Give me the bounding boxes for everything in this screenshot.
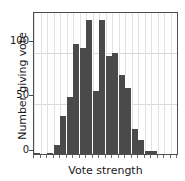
x-tick-mark (124, 155, 125, 158)
histogram-bar (86, 20, 93, 154)
x-tick-mark (150, 155, 151, 158)
x-tick-mark (79, 155, 80, 158)
x-tick-mark (53, 155, 54, 158)
x-tick-mark (66, 155, 67, 158)
x-tick-mark (92, 155, 93, 158)
x-tick-mark (144, 155, 145, 158)
x-tick-mark (157, 155, 158, 158)
histogram-bar (73, 44, 80, 154)
x-tick-mark (105, 155, 106, 158)
histogram-bar (34, 153, 41, 154)
histogram-figure: Number giving vote 100 50 0 Vote strengt… (0, 0, 185, 181)
x-tick-mark (72, 155, 73, 158)
histogram-bar (138, 140, 145, 154)
histogram-bars (34, 13, 177, 154)
histogram-bar (99, 20, 106, 154)
histogram-bar (60, 116, 67, 154)
plot-area (33, 12, 178, 155)
x-tick-mark (170, 155, 171, 158)
y-tick-label-0: 0 (5, 145, 29, 155)
histogram-bar (112, 53, 119, 154)
x-tick-mark (137, 155, 138, 158)
x-tick-mark (98, 155, 99, 158)
y-axis-tick-labels: 100 50 0 (4, 0, 29, 181)
x-axis-title: Vote strength (33, 164, 178, 177)
x-tick-mark (85, 155, 86, 158)
x-tick-mark (111, 155, 112, 158)
x-tick-mark (118, 155, 119, 158)
histogram-bar (125, 88, 132, 154)
x-tick-mark (59, 155, 60, 158)
y-tick-label-50: 50 (5, 90, 29, 100)
x-tick-mark (33, 155, 34, 158)
x-tick-mark (176, 155, 177, 158)
x-tick-mark (46, 155, 47, 158)
x-tick-mark (163, 155, 164, 158)
gridline-vertical (177, 13, 178, 154)
histogram-bar (47, 153, 54, 154)
histogram-bar (151, 151, 158, 154)
x-tick-mark (40, 155, 41, 158)
y-tick-label-100: 100 (5, 36, 29, 46)
x-tick-mark (131, 155, 132, 158)
